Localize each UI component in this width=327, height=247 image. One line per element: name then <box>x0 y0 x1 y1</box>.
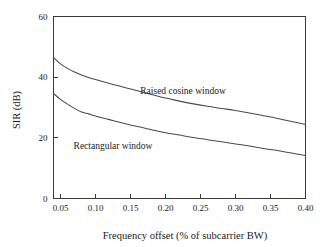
series-label: Raised cosine window <box>140 86 226 96</box>
x-tick-label: 0.20 <box>158 203 174 213</box>
y-tick-label: 20 <box>39 133 49 143</box>
sir-vs-frequency-offset-chart: 0.050.100.150.200.250.300.350.40 0204060… <box>0 0 327 247</box>
x-tick-label: 0.05 <box>53 203 69 213</box>
x-tick-label: 0.15 <box>123 203 139 213</box>
x-tick-label: 0.25 <box>193 203 209 213</box>
x-tick-label: 0.30 <box>228 203 244 213</box>
chart-figure: 0.050.100.150.200.250.300.350.40 0204060… <box>0 0 327 247</box>
series-label: Rectangular window <box>74 141 153 151</box>
x-axis-title: Frequency offset (% of subcarrier BW) <box>103 230 268 242</box>
y-axis-title: SIR (dB) <box>11 90 23 129</box>
x-tick-label: 0.35 <box>263 203 279 213</box>
x-tick-label: 0.10 <box>88 203 104 213</box>
x-tick-label: 0.40 <box>298 203 314 213</box>
y-tick-label: 0 <box>43 194 48 204</box>
y-tick-label: 60 <box>39 12 49 22</box>
y-tick-label: 40 <box>39 72 49 82</box>
